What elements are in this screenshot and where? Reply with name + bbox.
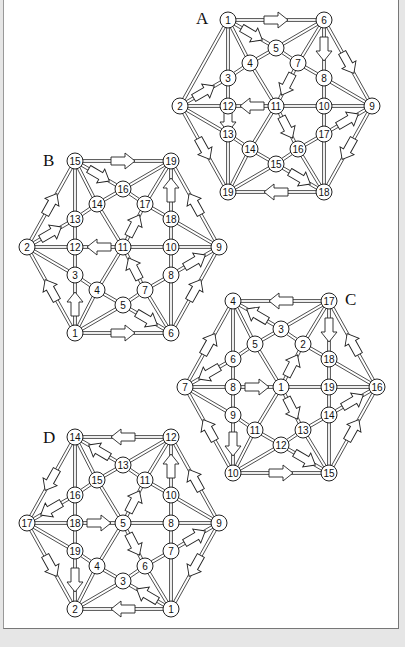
node-number: 4: [230, 296, 236, 307]
node: 3: [273, 321, 289, 337]
flow-arrow-icon: [274, 113, 299, 142]
node-number: 11: [271, 101, 282, 112]
flow-arrow-icon: [121, 211, 146, 240]
flow-arrow-icon: [286, 165, 315, 191]
node-number: 19: [165, 156, 177, 167]
node: 9: [211, 239, 227, 255]
flow-arrow-icon: [181, 248, 210, 274]
node-number: 10: [165, 490, 177, 501]
node: 11: [268, 98, 284, 114]
node: 19: [220, 184, 236, 200]
node-number: 1: [72, 328, 78, 339]
flow-arrow-icon: [38, 552, 64, 581]
flow-arrow-icon: [243, 302, 272, 328]
flow-arrow-icon: [111, 429, 135, 445]
node: 5: [247, 336, 263, 352]
node-number: 2: [72, 604, 78, 615]
node: 18: [321, 351, 337, 367]
node: 7: [177, 379, 193, 395]
node-number: 3: [278, 324, 284, 335]
node-number: 11: [118, 242, 129, 253]
flow-arrow-icon: [269, 293, 293, 309]
node-number: 3: [225, 73, 231, 84]
node-number: 3: [120, 576, 126, 587]
node: 15: [89, 472, 105, 488]
node-number: 17: [318, 129, 330, 140]
node: 14: [89, 196, 105, 212]
node-number: 9: [369, 101, 375, 112]
node-number: 16: [292, 144, 304, 155]
flow-arrow-icon: [191, 135, 217, 164]
node-number: 3: [72, 270, 78, 281]
flow-arrow-icon: [121, 254, 146, 283]
node: 17: [137, 196, 153, 212]
node-number: 14: [244, 144, 256, 155]
node: 11: [137, 472, 153, 488]
node: 15: [268, 156, 284, 172]
flow-arrow-icon: [335, 135, 361, 164]
node-number: 2: [24, 242, 30, 253]
node-number: 13: [117, 460, 129, 471]
node: 3: [67, 267, 83, 283]
node-number: 11: [140, 475, 151, 486]
node-number: 12: [275, 440, 287, 451]
flow-arrow-icon: [238, 21, 267, 47]
node: 4: [89, 558, 105, 574]
flow-arrow-icon: [163, 454, 179, 478]
flow-arrow-icon: [339, 388, 368, 414]
node: 4: [242, 55, 258, 71]
node: 7: [290, 55, 306, 71]
node: 8: [163, 267, 179, 283]
node: 10: [163, 239, 179, 255]
nodes: 74171615103526188119914111312: [177, 293, 385, 481]
node: 7: [137, 282, 153, 298]
node-number: 4: [247, 58, 253, 69]
node-number: 5: [273, 43, 279, 54]
node: 12: [67, 239, 83, 255]
flow-arrow-icon: [264, 184, 288, 200]
node: 10: [316, 98, 332, 114]
node-number: 19: [222, 187, 234, 198]
node-number: 15: [69, 156, 81, 167]
flow-arrow-icon: [111, 153, 135, 169]
node: 12: [163, 429, 179, 445]
flow-arrow-icon: [321, 318, 337, 342]
node-number: 9: [216, 242, 222, 253]
node-number: 1: [225, 15, 231, 26]
node: 11: [247, 422, 263, 438]
node-number: 6: [321, 15, 327, 26]
node-number: 17: [21, 518, 33, 529]
flow-arrow-icon: [133, 306, 162, 332]
node: 6: [316, 12, 332, 28]
node: 9: [364, 98, 380, 114]
node: 16: [369, 379, 385, 395]
node-number: 1: [278, 382, 284, 393]
node-number: 6: [230, 354, 236, 365]
node: 1: [273, 379, 289, 395]
node: 14: [321, 407, 337, 423]
node: 4: [225, 293, 241, 309]
node-number: 1: [168, 604, 174, 615]
flow-arrow-icon: [181, 524, 210, 550]
node-number: 5: [120, 518, 126, 529]
flow-arrow-icon: [121, 487, 146, 516]
node-number: 18: [323, 354, 335, 365]
node: 13: [115, 457, 131, 473]
node-number: 15: [91, 475, 103, 486]
flow-arrow-icon: [291, 446, 320, 472]
node-number: 9: [216, 518, 222, 529]
node-number: 17: [323, 296, 335, 307]
node-number: 8: [321, 73, 327, 84]
node-number: 16: [69, 490, 81, 501]
node: 17: [321, 293, 337, 309]
node-number: 14: [69, 432, 81, 443]
flow-arrow-icon: [182, 190, 208, 219]
flow-arrow-icon: [196, 416, 222, 445]
diagram-label: C: [345, 290, 356, 309]
nodes: 17141291213151116101858197463: [19, 429, 227, 617]
node-number: 6: [142, 561, 148, 572]
node-number: 12: [222, 101, 234, 112]
node-number: 7: [168, 546, 174, 557]
flow-arrow-icon: [38, 276, 64, 305]
node: 15: [67, 153, 83, 169]
